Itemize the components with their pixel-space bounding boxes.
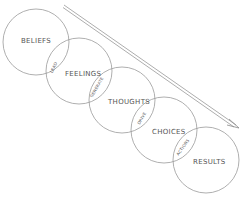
intersection-actions: ACTIONS [175,138,190,157]
label-beliefs: BELIEFS [21,37,51,45]
label-results: RESULTS [193,158,226,166]
label-choices: CHOICES [152,128,186,136]
label-thoughts: THOUGHTS [107,98,150,106]
flow-arrow [63,5,239,128]
label-feelings: FEELINGS [65,70,102,78]
